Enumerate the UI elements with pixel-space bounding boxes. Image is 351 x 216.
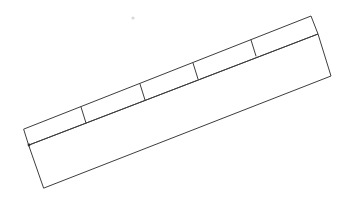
slab-diagram — [0, 0, 351, 216]
left-junction-vertex-marker — [28, 144, 31, 147]
stray-speck-mark — [131, 16, 134, 19]
drawing-canvas — [0, 0, 351, 216]
